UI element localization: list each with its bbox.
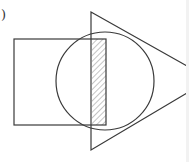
image-edge: [186, 0, 189, 162]
shaded-intersection-region: [92, 39, 106, 125]
venn-diagram: [0, 0, 189, 162]
